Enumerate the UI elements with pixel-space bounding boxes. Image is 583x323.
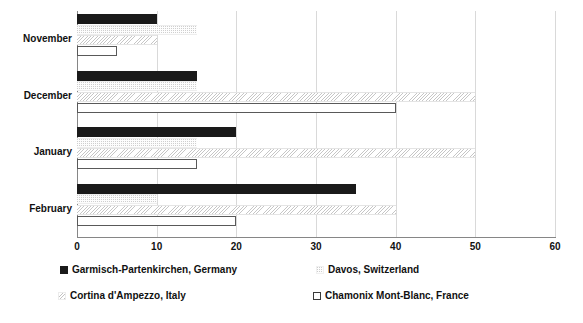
category-axis-labels: November December January February (0, 11, 72, 237)
value-tick-label: 50 (470, 241, 481, 252)
bar[interactable] (77, 103, 396, 113)
legend-item-davos[interactable]: Davos, Switzerland (316, 264, 419, 275)
value-tick-label: 20 (231, 241, 242, 252)
legend-swatch-icon (60, 266, 68, 274)
bar[interactable] (77, 148, 475, 158)
bar[interactable] (77, 92, 475, 102)
bar[interactable] (77, 81, 197, 91)
gridline (555, 11, 556, 237)
legend-label: Garmisch-Partenkirchen, Germany (72, 264, 237, 275)
bar[interactable] (77, 35, 157, 45)
bar[interactable] (77, 194, 157, 204)
legend-label: Davos, Switzerland (328, 264, 419, 275)
category-label: February (0, 203, 72, 214)
bar[interactable] (77, 205, 396, 215)
legend-label: Cortina d'Ampezzo, Italy (70, 290, 186, 301)
value-tick-label: 40 (390, 241, 401, 252)
bar[interactable] (77, 138, 197, 148)
value-tick-label: 60 (549, 241, 560, 252)
legend-item-chamonix-mont-blanc[interactable]: Chamonix Mont-Blanc, France (313, 290, 469, 301)
legend-item-garmisch-partenkirchen[interactable]: Garmisch-Partenkirchen, Germany (60, 264, 237, 275)
bar-group (77, 124, 555, 181)
bar[interactable] (77, 159, 197, 169)
plot-area (77, 11, 555, 237)
value-tick-label: 10 (151, 241, 162, 252)
legend-swatch-icon (313, 292, 321, 300)
category-label: December (0, 90, 72, 101)
legend-label: Chamonix Mont-Blanc, France (325, 290, 469, 301)
category-axis-line (77, 237, 556, 238)
value-tick-label: 0 (74, 241, 80, 252)
legend-swatch-icon (58, 292, 66, 300)
category-label: November (0, 33, 72, 44)
category-label: January (0, 146, 72, 157)
bar[interactable] (77, 14, 157, 24)
legend-swatch-icon (316, 266, 324, 274)
bar[interactable] (77, 25, 197, 35)
bar-group (77, 181, 555, 238)
bar[interactable] (77, 71, 197, 81)
bar-group (77, 68, 555, 125)
bar[interactable] (77, 127, 236, 137)
bar[interactable] (77, 46, 117, 56)
value-tick-label: 30 (310, 241, 321, 252)
bar-group (77, 11, 555, 68)
bar-chart: November December January February 01020… (0, 0, 583, 323)
bar[interactable] (77, 184, 356, 194)
chart-title (0, 0, 583, 2)
bar[interactable] (77, 216, 236, 226)
legend-item-cortina-dampezzo[interactable]: Cortina d'Ampezzo, Italy (58, 290, 186, 301)
chart-legend: Garmisch-Partenkirchen, Germany Davos, S… (58, 262, 558, 314)
